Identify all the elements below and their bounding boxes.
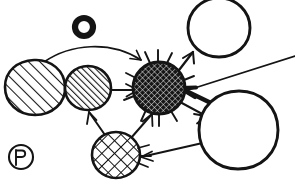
node-empty-bottom-right[interactable] [199,91,278,169]
node-dense-diagonal-hatch[interactable] [65,66,111,110]
diagram-canvas: Hand-drawn directed node graph [0,0,295,183]
node-diagonal-hatch-left[interactable] [5,60,65,115]
circled-p-icon [9,145,33,169]
diagram-svg [0,0,295,183]
node-empty-top-right[interactable] [188,0,250,57]
